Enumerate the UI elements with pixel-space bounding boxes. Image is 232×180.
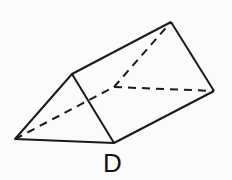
bottom-right-edge (114, 91, 214, 143)
diagram-label: D (103, 150, 122, 176)
top-edge (72, 22, 171, 74)
hidden-back-top-edge (114, 22, 171, 87)
prism-diagram: D (0, 0, 232, 180)
back-right-edge (171, 22, 214, 91)
hidden-left-edge (15, 87, 114, 139)
front-triangle-face (15, 74, 114, 143)
hidden-back-bottom-edge (114, 87, 214, 91)
